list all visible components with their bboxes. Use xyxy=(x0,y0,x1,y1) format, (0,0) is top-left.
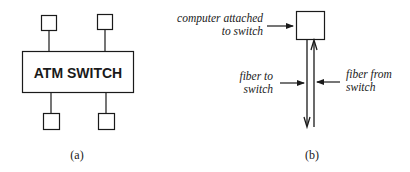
caption-b: (b) xyxy=(305,148,319,162)
atm-switch-label: ATM SWITCH xyxy=(34,65,122,81)
panel-a: ATM SWITCH (a) xyxy=(23,15,134,163)
label-fiber-to-line1: fiber to xyxy=(239,70,273,83)
label-fiber-to-line2: switch xyxy=(244,83,274,95)
computer-box xyxy=(297,12,325,40)
computer-box-bottom-left xyxy=(44,114,60,130)
label-computer-line1: computer attached xyxy=(177,12,263,25)
label-computer-line2: to switch xyxy=(222,25,263,37)
computer-box-bottom-right xyxy=(99,114,115,130)
computer-box-top-left xyxy=(42,16,57,31)
atm-diagram: ATM SWITCH (a) computer attached to swit… xyxy=(0,0,410,172)
caption-a: (a) xyxy=(70,148,83,162)
panel-b: computer attached to switch fiber to swi… xyxy=(177,12,392,163)
label-fiber-from-line1: fiber from xyxy=(346,68,392,81)
label-fiber-from-line2: switch xyxy=(346,81,376,93)
computer-box-top-right xyxy=(98,15,113,30)
